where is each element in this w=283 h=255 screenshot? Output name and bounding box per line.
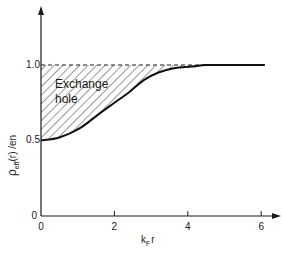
y-label-tail: (r) /en <box>7 135 18 162</box>
x-tick-6: 6 <box>258 221 264 232</box>
x-tick-4: 4 <box>185 221 191 232</box>
y-axis-arrow-icon <box>38 6 44 15</box>
x-axis-label: kFr <box>141 234 155 247</box>
x-axis-arrow-icon <box>272 213 281 219</box>
y-tick-0-5: 0.5 <box>26 134 40 145</box>
x-label-r: r <box>151 234 155 245</box>
x-label-sub: F <box>146 240 150 247</box>
annotation-exchange: Exchange <box>55 77 109 91</box>
y-tick-1-0: 1.0 <box>26 59 40 70</box>
exchange-hole-chart: 0 2 4 6 0 0.5 1.0 Exchange hole kFr ρeff… <box>0 0 283 255</box>
x-tick-0: 0 <box>38 221 44 232</box>
x-ticks <box>114 211 261 216</box>
x-tick-2: 2 <box>112 221 118 232</box>
annotation-hole: hole <box>55 92 78 106</box>
y-axis-label: ρeff(r) /en <box>5 135 20 176</box>
y-tick-0: 0 <box>31 210 37 221</box>
y-label-sub: eff <box>13 161 20 169</box>
